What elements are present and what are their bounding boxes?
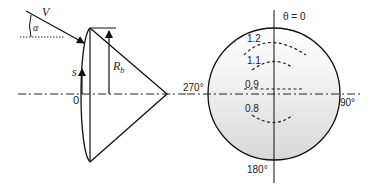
theta-zero-label: θ = 0 (283, 11, 306, 22)
theta-270-label: 270° (183, 82, 204, 93)
contour-label-0-9: 0.9 (245, 79, 259, 90)
angle-label: α (33, 22, 39, 33)
contour-label-1-1: 1.1 (247, 55, 261, 66)
cone-diagram: V α s 0 Rb 1.2 1.1 0.9 0.8 θ = 0 90° 180… (0, 0, 374, 191)
velocity-label: V (42, 5, 51, 19)
cone-side-view: V α s 0 Rb (18, 5, 187, 162)
contour-label-0-8: 0.8 (245, 103, 259, 114)
arc-coordinate-label: s (72, 65, 77, 79)
base-radius-label: Rb (112, 59, 124, 75)
theta-180-label: 180° (247, 164, 268, 175)
origin-label: 0 (73, 94, 79, 106)
base-contour-view: 1.2 1.1 0.9 0.8 θ = 0 90° 180° 270° (183, 10, 360, 183)
cone-base-ellipse (81, 28, 90, 162)
theta-90-label: 90° (340, 97, 355, 108)
angle-arc (30, 15, 32, 37)
contour-label-1-2: 1.2 (247, 33, 261, 44)
cone-outline (90, 28, 167, 162)
